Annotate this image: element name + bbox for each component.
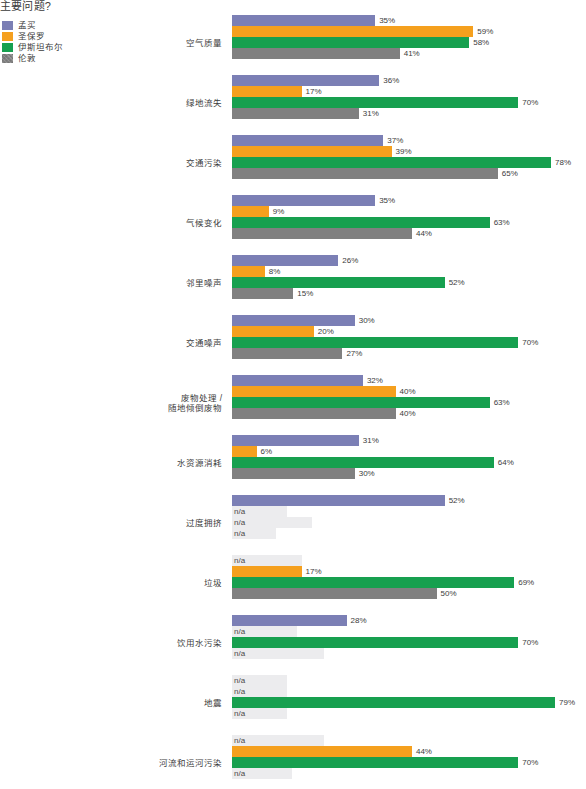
bar-row[interactable]: n/a [232,686,586,697]
bar-segment[interactable] [232,228,412,239]
bar-row[interactable]: 6% [232,446,586,457]
bar-segment[interactable] [232,386,396,397]
bar-row[interactable]: n/a [232,528,586,539]
bar-row[interactable]: 78% [232,157,586,168]
bar-segment[interactable] [232,468,355,479]
bar-segment[interactable] [232,15,375,26]
bar-row[interactable]: 50% [232,588,586,599]
bar-row[interactable]: n/a [232,517,586,528]
bar-segment[interactable] [232,37,469,48]
bar-row[interactable]: 44% [232,746,586,757]
bar-row[interactable]: 65% [232,168,586,179]
bar-row[interactable]: 58% [232,37,586,48]
bar-row[interactable]: n/a [232,675,586,686]
bar-row[interactable]: 27% [232,348,586,359]
bar-row[interactable]: 30% [232,468,586,479]
bar-row[interactable]: 44% [232,228,586,239]
bar-row[interactable]: 63% [232,217,586,228]
bar-segment[interactable] [232,195,375,206]
bar-row[interactable]: 31% [232,435,586,446]
bar-row[interactable]: n/a [232,648,586,659]
bar-row[interactable]: 31% [232,108,586,119]
bar-stack: n/a17%69%50% [232,555,586,599]
bar-row[interactable]: 64% [232,457,586,468]
bar-row[interactable]: 40% [232,386,586,397]
bar-row[interactable]: 17% [232,86,586,97]
bar-row[interactable]: 59% [232,26,586,37]
bar-row[interactable]: n/a [232,626,586,637]
bar-segment[interactable] [232,495,445,506]
bar-row[interactable]: n/a [232,768,586,779]
bar-segment[interactable] [232,75,379,86]
bar-value-label: 31% [363,436,379,445]
bar-segment[interactable] [232,48,400,59]
bar-row[interactable]: 52% [232,277,586,288]
bar-row[interactable]: 9% [232,206,586,217]
bar-row[interactable]: 36% [232,75,586,86]
bar-segment[interactable] [232,108,359,119]
bar-row[interactable]: 39% [232,146,586,157]
bar-segment[interactable] [232,457,494,468]
bar-segment[interactable] [232,757,518,768]
bar-segment[interactable] [232,26,473,37]
bar-segment[interactable] [232,146,392,157]
bar-segment[interactable] [232,697,555,708]
bar-segment[interactable] [232,97,518,108]
bar-row[interactable]: 30% [232,315,586,326]
bar-segment[interactable] [232,566,302,577]
bar-row[interactable]: 32% [232,375,586,386]
bar-segment[interactable] [232,266,265,277]
bar-value-label: 27% [346,349,362,358]
bar-segment[interactable] [232,135,383,146]
bar-segment[interactable] [232,637,518,648]
bar-segment[interactable] [232,615,347,626]
bar-row[interactable]: 70% [232,637,586,648]
bar-value-label: n/a [234,687,245,696]
bar-segment[interactable] [232,337,518,348]
bar-row[interactable]: 17% [232,566,586,577]
bar-row[interactable]: n/a [232,708,586,719]
bar-row[interactable]: 70% [232,97,586,108]
bar-row[interactable]: 35% [232,15,586,26]
bar-row[interactable]: 26% [232,255,586,266]
bar-row[interactable]: 35% [232,195,586,206]
bar-segment[interactable] [232,168,498,179]
bar-row[interactable]: 69% [232,577,586,588]
bar-row[interactable]: n/a [232,735,586,746]
bar-segment[interactable] [232,326,314,337]
bar-group: 空气质量35%59%58%41% [0,13,586,73]
bar-row[interactable]: 52% [232,495,586,506]
bar-segment[interactable] [232,86,302,97]
bar-row[interactable]: 70% [232,337,586,348]
bar-segment[interactable] [232,206,269,217]
bar-segment[interactable] [232,588,437,599]
bar-segment[interactable] [232,435,359,446]
bar-row[interactable]: n/a [232,506,586,517]
bar-row[interactable]: 63% [232,397,586,408]
bar-segment[interactable] [232,746,412,757]
bar-segment[interactable] [232,348,342,359]
bar-segment[interactable] [232,408,396,419]
bar-group: 气候变化35%9%63%44% [0,193,586,253]
bar-row[interactable]: 41% [232,48,586,59]
bar-row[interactable]: 40% [232,408,586,419]
bar-row[interactable]: 15% [232,288,586,299]
bar-value-label: 17% [306,567,322,576]
bar-row[interactable]: 20% [232,326,586,337]
bar-segment[interactable] [232,157,551,168]
bar-segment[interactable] [232,217,490,228]
bar-row[interactable]: 79% [232,697,586,708]
bar-row[interactable]: n/a [232,555,586,566]
bar-segment[interactable] [232,397,490,408]
bar-segment[interactable] [232,577,514,588]
bar-segment[interactable] [232,315,355,326]
bar-row[interactable]: 8% [232,266,586,277]
bar-row[interactable]: 37% [232,135,586,146]
bar-segment[interactable] [232,288,293,299]
bar-segment[interactable] [232,277,445,288]
bar-row[interactable]: 28% [232,615,586,626]
bar-segment[interactable] [232,446,257,457]
bar-segment[interactable] [232,375,363,386]
bar-row[interactable]: 70% [232,757,586,768]
bar-segment[interactable] [232,255,338,266]
